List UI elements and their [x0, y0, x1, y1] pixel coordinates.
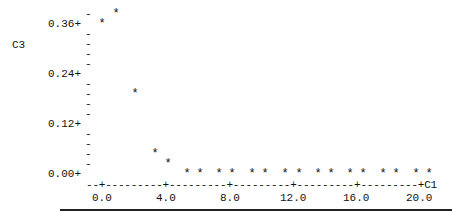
data-point: * — [151, 148, 159, 160]
y-tick-0-12: 0.12+ — [48, 119, 81, 130]
x-tick-20: 20.0 — [406, 193, 432, 204]
data-point: * — [164, 158, 172, 170]
data-point: * — [98, 18, 106, 30]
y-tick-0-24: 0.24+ — [48, 69, 81, 80]
x-tick-8: 8.0 — [220, 193, 240, 204]
data-point: * — [112, 8, 120, 20]
x-tick-0: 0.0 — [92, 193, 112, 204]
y-tick-0-00: 0.00+ — [48, 169, 81, 180]
data-point: * — [131, 88, 139, 100]
bottom-divider — [60, 209, 452, 211]
x-tick-16: 16.0 — [343, 193, 369, 204]
x-tick-4: 4.0 — [156, 193, 176, 204]
x-tick-12: 12.0 — [280, 193, 306, 204]
y-tick-0-36: 0.36+ — [48, 19, 81, 30]
y-axis-title: C3 — [12, 40, 25, 51]
x-axis-line: --+---------+---------+---------+-------… — [86, 180, 437, 191]
